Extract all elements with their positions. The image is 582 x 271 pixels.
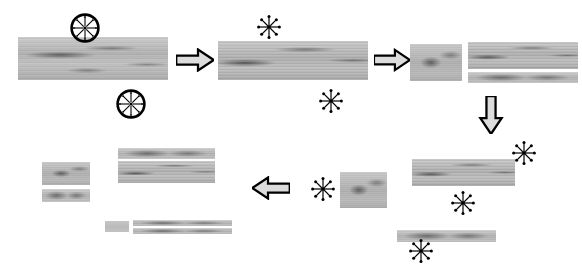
circled-starburst-symbol	[116, 89, 146, 119]
timber-piece-cant-right	[412, 159, 515, 186]
timber-piece-side-block	[410, 44, 462, 81]
circled-starburst-symbol	[70, 13, 100, 43]
starburst-symbol	[450, 190, 476, 216]
timber-piece-product-batten-a	[133, 220, 232, 226]
arrow-step5-to-step6	[252, 176, 290, 200]
arrow-step1-to-step2	[176, 48, 214, 72]
timber-piece-product-board-a	[118, 148, 215, 159]
starburst-symbol	[318, 88, 344, 114]
starburst-symbol	[310, 176, 336, 202]
timber-piece-mid-block	[340, 172, 387, 208]
timber-piece-product-stub	[105, 221, 129, 232]
arrow-step3-to-step4	[478, 96, 504, 134]
timber-piece-cant-full	[18, 37, 168, 80]
starburst-symbol	[256, 14, 282, 40]
timber-piece-board-lower	[468, 72, 578, 83]
timber-piece-product-batten-b	[133, 228, 232, 234]
starburst-symbol	[408, 238, 434, 264]
starburst-symbol	[511, 140, 537, 166]
timber-piece-product-block-a	[42, 162, 90, 185]
timber-piece-product-board-b	[118, 161, 215, 183]
figure-canvas	[0, 0, 582, 271]
timber-piece-cant-trimmed	[218, 41, 368, 80]
timber-piece-board-upper	[468, 42, 578, 69]
timber-piece-product-block-b	[42, 189, 90, 202]
arrow-step2-to-step3	[374, 48, 410, 72]
